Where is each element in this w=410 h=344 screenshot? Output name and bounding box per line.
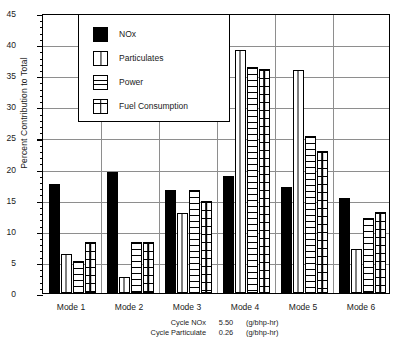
- bar-power: [363, 218, 374, 293]
- annotation-row: Cycle Particulate0.26(g/bhp-hr): [132, 328, 306, 338]
- bar-fuel-consumption: [85, 242, 96, 293]
- footnote-annotations: Cycle NOx5.50(g/bhp-hr)Cycle Particulate…: [132, 318, 306, 337]
- annotation-value: 0.26: [206, 328, 246, 338]
- bar-power: [189, 190, 200, 293]
- annotation-unit: (g/bhp-hr): [246, 318, 306, 328]
- bar-particulates: [177, 213, 188, 293]
- power-swatch-icon: [93, 75, 108, 90]
- bar-fuel-consumption: [259, 69, 270, 293]
- bar-fuel-consumption: [143, 242, 154, 293]
- bar-particulates: [119, 277, 130, 293]
- bar-power: [305, 136, 316, 293]
- legend-label: Particulates: [119, 53, 163, 63]
- bar-nox: [165, 190, 176, 293]
- annotation-row: Cycle NOx5.50(g/bhp-hr): [132, 318, 306, 328]
- y-axis-tick: [37, 295, 43, 296]
- bar-fuel-consumption: [201, 201, 212, 293]
- y-axis-tick-label: 35: [0, 71, 16, 81]
- legend-item-power: Power: [93, 70, 229, 94]
- bar-power: [73, 261, 84, 293]
- bar-nox: [281, 187, 292, 293]
- bar-fuel-consumption: [317, 151, 328, 293]
- bar-power: [131, 242, 142, 293]
- bar-group: [333, 15, 391, 293]
- annotation-label: Cycle Particulate: [132, 328, 206, 338]
- annotation-label: Cycle NOx: [132, 318, 206, 328]
- y-axis-tick-label: 30: [0, 102, 16, 112]
- annotation-unit: (g/bhp-hr): [246, 328, 306, 338]
- fuel-consumption-swatch-icon: [93, 99, 108, 114]
- y-axis-tick-label: 15: [0, 195, 16, 205]
- bar-particulates: [351, 249, 362, 293]
- y-axis-title: Percent Contribution to Total: [19, 0, 29, 233]
- legend-label: Fuel Consumption: [119, 101, 188, 111]
- x-axis-tick-label: Mode 6: [326, 302, 396, 312]
- y-axis-tick-label: 20: [0, 164, 16, 174]
- bar-nox: [107, 172, 118, 293]
- legend-item-nox: NOx: [93, 22, 229, 46]
- bar-fuel-consumption: [375, 212, 386, 294]
- bar-nox: [223, 176, 234, 293]
- y-axis-tick-label: 40: [0, 40, 16, 50]
- y-axis-tick-label: 0: [0, 289, 16, 299]
- bar-particulates: [235, 50, 246, 293]
- bar-nox: [49, 184, 60, 293]
- particulates-swatch-icon: [93, 51, 108, 66]
- legend-item-fuel-consumption: Fuel Consumption: [93, 94, 229, 118]
- annotation-value: 5.50: [206, 318, 246, 328]
- legend-label: Power: [119, 77, 143, 87]
- y-axis-tick-label: 10: [0, 226, 16, 236]
- chart-figure: Percent Contribution to Total NOx Partic…: [0, 0, 410, 344]
- y-axis-tick-label: 5: [0, 257, 16, 267]
- y-axis-tick-label: 25: [0, 133, 16, 143]
- legend-label: NOx: [119, 29, 136, 39]
- chart-legend: NOx Particulates Power Fuel Consumption: [78, 14, 230, 122]
- bar-power: [247, 67, 258, 293]
- nox-swatch-icon: [93, 27, 108, 42]
- bar-particulates: [61, 254, 72, 293]
- y-axis-tick-label: 45: [0, 9, 16, 19]
- bar-nox: [339, 198, 350, 293]
- legend-item-particulates: Particulates: [93, 46, 229, 70]
- bar-particulates: [293, 70, 304, 293]
- bar-group: [275, 15, 333, 293]
